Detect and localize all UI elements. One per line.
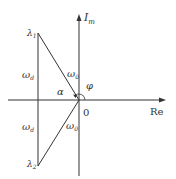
alpha-label: α bbox=[57, 86, 64, 97]
omega-d-upper-label: ωd bbox=[22, 69, 34, 81]
lambda1-label: λ1 bbox=[26, 28, 37, 39]
lambda2-label: λ2 bbox=[26, 159, 37, 170]
omega-0-lower-vector bbox=[38, 100, 79, 166]
imaginary-axis-arrow-icon bbox=[77, 14, 82, 21]
origin-label: 0 bbox=[83, 107, 89, 118]
complex-plane-diagram: Im Re 0 λ1 λ2 ωd ωd ω0 ω0 α φ bbox=[0, 0, 176, 179]
imaginary-axis-label: Im bbox=[83, 11, 95, 26]
phi-label: φ bbox=[86, 80, 93, 91]
real-axis-arrow-icon bbox=[159, 98, 166, 103]
real-axis-label: Re bbox=[150, 106, 164, 117]
omega-d-lower-label: ωd bbox=[22, 121, 34, 133]
omega-0-upper-label: ω0 bbox=[67, 68, 79, 80]
omega-0-lower-label: ω0 bbox=[66, 120, 78, 132]
